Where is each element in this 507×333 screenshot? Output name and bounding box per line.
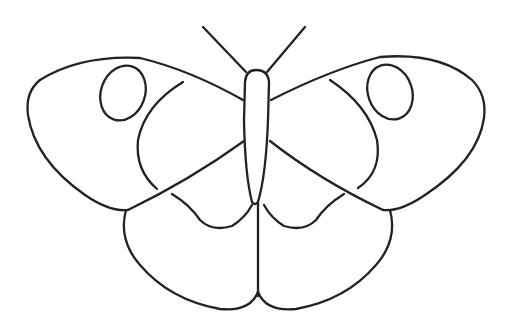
right-forewing-vein: [330, 80, 378, 188]
left-hindwing-vein: [172, 194, 252, 228]
right-hindwing-vein: [264, 194, 344, 228]
right-wing-spot: [360, 58, 420, 126]
left-forewing: [28, 58, 245, 211]
left-wing-spot: [93, 59, 153, 127]
right-hindwing: [258, 210, 392, 309]
coloring-page: [0, 0, 507, 333]
right-antenna: [267, 27, 305, 72]
right-forewing: [270, 56, 485, 210]
butterfly-drawing: [0, 0, 507, 333]
left-antenna: [203, 27, 246, 72]
butterfly-body: [244, 70, 269, 204]
left-hindwing: [124, 210, 258, 309]
